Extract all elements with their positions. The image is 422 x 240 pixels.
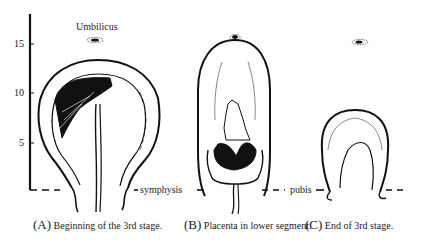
caption-b: (B) Placenta in lower segment.	[184, 217, 312, 233]
uterus-third-stage-diagram: 15 10 5 Umbilicus symphysis pubis (A) Be…	[0, 0, 422, 240]
caption-a-text: Beginning of the 3rd stage.	[54, 220, 163, 231]
caption-a: (A) Beginning of the 3rd stage.	[33, 217, 162, 233]
uterus-c	[322, 110, 388, 200]
uterus-b	[198, 35, 270, 215]
caption-c: (C) End of 3rd stage.	[305, 217, 393, 233]
axis-tick-5: 5	[4, 137, 24, 148]
height-axis	[30, 14, 34, 190]
umbilicus-icon-a	[87, 38, 103, 43]
caption-c-text: End of 3rd stage.	[325, 220, 393, 231]
pubis-label: pubis	[290, 184, 312, 195]
diagram-drawing	[0, 0, 422, 240]
axis-tick-10: 10	[4, 87, 24, 98]
axis-tick-15: 15	[4, 38, 24, 49]
caption-a-letter: (A)	[33, 217, 51, 232]
umbilicus-icon-c	[352, 40, 368, 45]
symphysis-label: symphysis	[140, 184, 182, 195]
caption-c-letter: (C)	[305, 217, 322, 232]
caption-b-letter: (B)	[184, 217, 201, 232]
umbilicus-label: Umbilicus	[76, 21, 118, 32]
caption-b-text: Placenta in lower segment.	[204, 220, 312, 231]
